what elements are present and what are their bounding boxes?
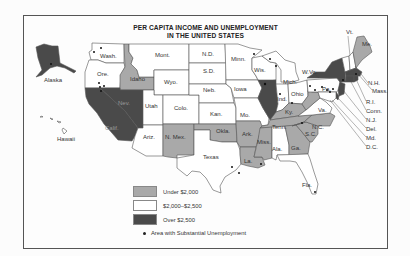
label-utah: Utah: [145, 103, 158, 109]
label-dc: D.C.: [366, 144, 378, 150]
label-maine: Me.: [362, 41, 372, 47]
legend-label: Over $2,500: [163, 217, 195, 223]
label-alaska: Alaska: [44, 77, 63, 83]
legend-label: Area with Substantial Unemployment: [151, 230, 246, 236]
state-alaska[interactable]: [36, 44, 76, 77]
label-pennsylvania: Pa.: [322, 86, 331, 92]
us-map: Alaska Hawaii Wash. Ore. Calif. Nev. Ida…: [0, 0, 410, 256]
label-south-carolina: S.C.: [305, 131, 317, 137]
legend-label: $2,000–$2,500: [163, 203, 202, 209]
label-mississippi: Miss.: [257, 139, 271, 145]
legend-item-under-2000: Under $2,000: [133, 186, 198, 197]
label-kansas: Kan.: [210, 111, 223, 117]
label-tennessee: Tenn.: [272, 124, 287, 130]
label-alabama: Ala.: [272, 146, 283, 152]
label-oregon: Ore.: [97, 71, 109, 77]
label-montana: Mont.: [155, 52, 170, 58]
label-nebraska: Neb.: [203, 87, 216, 93]
label-ohio: Ohio: [291, 91, 304, 97]
label-california: Calif.: [105, 125, 119, 131]
legend-swatch-dark-gray: [133, 214, 157, 225]
label-new-hampshire: N.H.: [368, 80, 380, 86]
label-idaho: Idaho: [130, 76, 146, 82]
label-north-dakota: N.D.: [202, 51, 214, 57]
label-colorado: Colo.: [174, 105, 188, 111]
state-florida[interactable]: [277, 154, 318, 194]
label-arkansas: Ark.: [242, 131, 253, 137]
label-north-carolina: N.C.: [312, 124, 324, 130]
label-michigan: Mich.: [283, 79, 298, 85]
label-south-dakota: S.D.: [203, 68, 215, 74]
label-new-jersey: N.J.: [366, 117, 377, 123]
label-wisconsin: Wis.: [254, 67, 266, 73]
label-georgia: Ga.: [291, 145, 301, 151]
label-florida: Fla.: [302, 182, 312, 188]
label-maryland: Md.: [366, 135, 376, 141]
legend-swatch-light-gray: [133, 186, 157, 197]
label-virginia: Va.: [318, 107, 327, 113]
label-minnesota: Minn.: [231, 56, 246, 62]
dot-icon: [143, 232, 146, 235]
label-indiana: Ind.: [277, 96, 287, 102]
legend-item-2000-2500: $2,000–$2,500: [133, 200, 202, 211]
state-connecticut[interactable]: [346, 76, 354, 82]
label-connecticut: Conn.: [366, 108, 382, 114]
label-louisiana: La.: [244, 158, 253, 164]
label-west-virginia: W.Va.: [302, 69, 318, 75]
label-massachusetts: Mass.: [372, 88, 388, 94]
label-rhode-island: R.I.: [366, 99, 376, 105]
legend-label: Under $2,000: [163, 189, 198, 195]
label-oklahoma: Okla.: [216, 128, 230, 134]
label-washington: Wash.: [100, 53, 117, 59]
label-wyoming: Wyo.: [164, 79, 178, 85]
label-texas: Texas: [203, 154, 219, 160]
label-vermont: Vt.: [346, 29, 354, 35]
label-nevada: Nev.: [118, 100, 130, 106]
state-new-mexico[interactable]: [163, 124, 194, 158]
label-iowa: Iowa: [234, 86, 247, 92]
label-hawaii: Hawaii: [57, 136, 75, 142]
label-arizona: Ariz.: [143, 134, 155, 140]
legend-swatch-white: [133, 200, 157, 211]
label-delaware: Del.: [366, 126, 377, 132]
legend-item-over-2500: Over $2,500: [133, 214, 195, 225]
label-new-mexico: N. Mex.: [165, 134, 186, 140]
label-kentucky: Ky.: [285, 109, 294, 115]
label-missouri: Mo.: [240, 112, 250, 118]
legend-item-unemployment: Area with Substantial Unemployment: [143, 230, 246, 236]
state-hawaii[interactable]: [40, 116, 67, 134]
